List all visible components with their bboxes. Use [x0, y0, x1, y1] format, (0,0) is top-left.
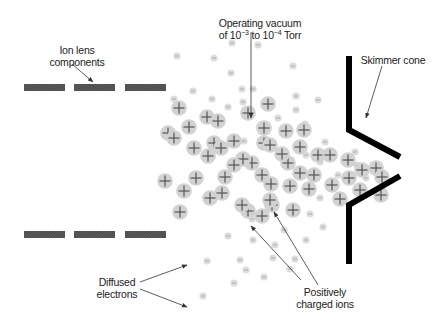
electron-icon — [319, 223, 326, 230]
ion-lens-label-line1: Ion lens — [42, 44, 112, 56]
ion-lens-plate — [74, 231, 115, 238]
electron-icon — [302, 236, 309, 243]
positive-ion-icon — [262, 192, 278, 208]
electron-icon — [260, 273, 267, 280]
positive-ion-icon — [282, 178, 298, 194]
vacuum-text-b: to 10 — [249, 29, 274, 41]
electron-icon — [239, 98, 246, 105]
electron-icon — [274, 114, 281, 121]
electron-icon — [334, 171, 341, 178]
electron-icon — [321, 138, 328, 145]
electron-icon — [289, 62, 296, 69]
skimmer-arrow — [366, 66, 382, 118]
skimmer-cone — [349, 56, 400, 264]
electron-icon — [224, 232, 231, 239]
ions-label-line1: Positively — [290, 286, 360, 298]
positive-ion-icon — [292, 139, 308, 155]
vacuum-text-c: Torr — [281, 29, 301, 41]
ion-lens-plate — [24, 84, 65, 91]
positive-ions-label: Positively charged ions — [290, 286, 360, 310]
positive-ion-icon — [181, 119, 197, 135]
electron-icon — [227, 69, 234, 76]
electron-icon — [291, 255, 298, 262]
electron-icon — [238, 85, 245, 92]
positive-ion-icon — [213, 140, 229, 156]
electron-icon — [210, 54, 217, 61]
positive-ion-icon — [200, 148, 216, 164]
diffused-electrons — [170, 39, 369, 299]
positive-ion-icon — [202, 190, 218, 206]
electron-icon — [242, 266, 249, 273]
vacuum-text-a: of 10 — [219, 29, 241, 41]
vacuum-label-line2: of 10−3 to 10−4 Torr — [210, 29, 310, 41]
electron-icon — [208, 95, 215, 102]
positive-ion-icon — [296, 122, 312, 138]
electron-icon — [189, 87, 196, 94]
positive-ion-icon — [306, 167, 322, 183]
electron-icon — [173, 52, 180, 59]
electrons-label-line2: electrons — [92, 288, 142, 300]
positive-ion-icon — [263, 176, 279, 192]
positive-ion-icon — [285, 202, 301, 218]
positive-ion-icon — [176, 183, 192, 199]
electron-icon — [271, 241, 278, 248]
ion-lens-plate — [125, 84, 166, 91]
ion-lens-plate — [125, 231, 166, 238]
positive-ion-icon — [234, 197, 250, 213]
electron-icon — [224, 103, 231, 110]
electron-icon — [249, 236, 256, 243]
positive-ion-icon — [292, 165, 308, 181]
positive-ion-icon — [210, 113, 226, 129]
electron-icon — [314, 96, 321, 103]
ion-lens-label: Ion lens components — [42, 44, 112, 68]
positive-ion-icon — [340, 152, 356, 168]
skimmer-cone-label: Skimmer cone — [358, 54, 428, 66]
electron-icon — [230, 279, 237, 286]
positive-ion-icon — [157, 173, 173, 189]
ion-lens-components — [24, 84, 166, 238]
electron-icon — [306, 210, 313, 217]
ions-label-line2: charged ions — [290, 298, 360, 310]
positive-ion-icon — [260, 96, 276, 112]
electron-icon — [286, 265, 293, 272]
positive-ion-icon — [172, 204, 188, 220]
skimmer-cone-upper-wall — [349, 56, 400, 157]
electron-icon — [236, 256, 243, 263]
positive-ion-icon — [256, 120, 272, 136]
electron-icon — [292, 106, 299, 113]
positive-ion-icon — [171, 100, 187, 116]
vacuum-exp-a: −3 — [241, 29, 249, 36]
vacuum-label: Operating vacuum of 10−3 to 10−4 Torr — [210, 17, 310, 41]
positive-ion-icon — [186, 140, 202, 156]
positive-ion-icon — [188, 170, 204, 186]
vacuum-label-line1: Operating vacuum — [210, 17, 310, 29]
positive-ion-icon — [226, 157, 242, 173]
positive-ion-icon — [274, 146, 290, 162]
electron-icon — [292, 92, 299, 99]
skimmer-cone-label-text: Skimmer cone — [358, 54, 428, 66]
positive-ion-icon — [354, 162, 370, 178]
positive-ion-icon — [332, 191, 348, 207]
positive-ion-icon — [254, 208, 270, 224]
electrons-arrow-lower — [140, 289, 187, 307]
ion-lens-plate — [24, 231, 65, 238]
positive-ion-icon — [166, 130, 182, 146]
positive-ion-icon — [278, 123, 294, 139]
positive-ion-icon — [322, 147, 338, 163]
diffused-electrons-label: Diffused electrons — [92, 276, 142, 300]
electrons-arrow-upper — [140, 265, 187, 282]
ions-arrow-left — [251, 226, 301, 280]
electron-icon — [269, 254, 276, 261]
positive-ion-icon — [240, 105, 256, 121]
positive-ion-icon — [301, 181, 317, 197]
electron-icon — [316, 194, 323, 201]
electron-icon — [254, 41, 261, 48]
electron-icon — [199, 292, 206, 299]
positive-ion-icon — [324, 177, 340, 193]
ion-lens-label-line2: components — [42, 56, 112, 68]
electrons-label-line1: Diffused — [92, 276, 142, 288]
positive-ion-icon — [341, 170, 357, 186]
ion-lens-plate — [74, 84, 115, 91]
electron-icon — [249, 85, 256, 92]
electron-icon — [203, 257, 210, 264]
